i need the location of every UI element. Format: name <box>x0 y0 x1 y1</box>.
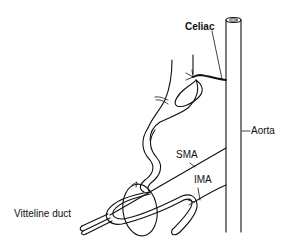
aorta-vessel <box>226 18 241 233</box>
midgut-rotation-diagram: Celiac Aorta SMA IMA Vitteline duct <box>0 0 296 249</box>
hairpin-loop <box>106 192 197 235</box>
sma-label: SMA <box>176 150 198 160</box>
vitelline-duct-label: Vitteline duct <box>14 209 71 219</box>
rotation-ring <box>120 182 161 238</box>
ima-label: IMA <box>194 175 212 185</box>
vitelline-duct <box>80 214 112 235</box>
aorta-label: Aorta <box>251 126 275 136</box>
ima-artery <box>188 185 226 205</box>
foregut-outline <box>148 55 202 140</box>
celiac-artery <box>186 31 226 80</box>
celiac-label: Celiac <box>185 22 214 32</box>
